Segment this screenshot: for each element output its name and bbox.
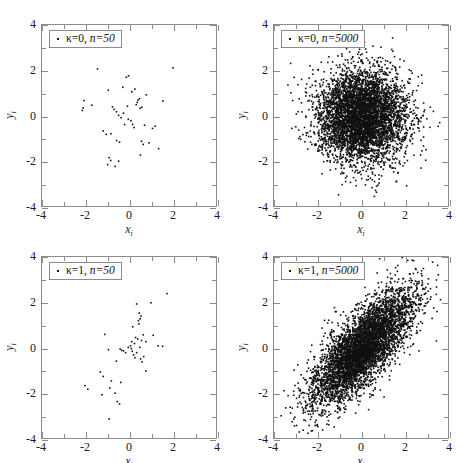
legend-label: κ=0, n=50 xyxy=(66,32,115,45)
tick-mark xyxy=(274,432,275,438)
tick-mark xyxy=(196,257,197,261)
tick-mark xyxy=(296,434,297,438)
tick-mark xyxy=(196,25,197,29)
y-tick-label: -2 xyxy=(258,155,268,167)
tick-mark xyxy=(218,257,219,263)
y-tick-label: 0 xyxy=(30,110,36,122)
tick-mark xyxy=(212,280,216,281)
plot-area xyxy=(42,25,216,206)
legend-kappa: κ=1, xyxy=(298,264,319,276)
tick-mark xyxy=(174,25,175,31)
tick-mark xyxy=(450,200,451,206)
legend-n: n=5000 xyxy=(322,264,359,276)
y-tick-label: 2 xyxy=(30,296,36,308)
tick-mark xyxy=(210,162,216,163)
dot-marker-icon xyxy=(289,270,291,272)
tick-mark xyxy=(384,25,385,29)
legend-box: κ=1, n=5000 xyxy=(281,262,365,280)
tick-mark xyxy=(444,417,448,418)
tick-mark xyxy=(174,432,175,438)
tick-mark xyxy=(42,257,48,258)
tick-mark xyxy=(340,434,341,438)
tick-mark xyxy=(42,25,48,26)
tick-mark xyxy=(274,371,278,372)
x-tick-label: 0 xyxy=(358,441,364,453)
dot-marker-icon xyxy=(57,38,59,40)
tick-mark xyxy=(212,371,216,372)
tick-mark xyxy=(42,432,43,438)
x-tick-label: -2 xyxy=(312,209,322,221)
y-tick-label: 0 xyxy=(262,342,268,354)
legend-n: n=5000 xyxy=(322,32,359,44)
x-tick-label: -4 xyxy=(36,441,46,453)
plot-area xyxy=(274,25,448,206)
tick-mark xyxy=(42,326,46,327)
y-axis-title-sub: i xyxy=(9,343,18,345)
tick-mark xyxy=(218,200,219,206)
tick-mark xyxy=(406,432,407,438)
figure-scatter-grid: κ=0, n=50 -4-2024 -4-2024 xi yi κ=0, n=5… xyxy=(0,0,463,463)
tick-mark xyxy=(428,25,429,29)
x-tick-label: -2 xyxy=(80,441,90,453)
tick-mark xyxy=(274,139,278,140)
tick-mark xyxy=(406,257,407,263)
legend-label: κ=1, n=5000 xyxy=(298,264,358,277)
tick-mark xyxy=(442,162,448,163)
tick-mark xyxy=(210,303,216,304)
tick-mark xyxy=(212,185,216,186)
tick-mark xyxy=(442,257,448,258)
tick-mark xyxy=(152,25,153,29)
x-tick-label: 2 xyxy=(402,209,408,221)
legend-box: κ=0, n=50 xyxy=(49,30,122,48)
tick-mark xyxy=(406,25,407,31)
y-axis-title-text: y xyxy=(2,113,16,118)
y-tick-label: 2 xyxy=(262,296,268,308)
tick-mark xyxy=(274,257,280,258)
tick-mark xyxy=(274,71,280,72)
panel-kappa0-n50: κ=0, n=50 -4-2024 -4-2024 xi yi xyxy=(0,0,231,231)
tick-mark xyxy=(152,257,153,261)
y-tick-label: 4 xyxy=(262,18,268,30)
tick-mark xyxy=(274,200,275,206)
x-tick-label: 4 xyxy=(446,441,452,453)
tick-mark xyxy=(64,25,65,29)
tick-mark xyxy=(64,202,65,206)
tick-mark xyxy=(210,394,216,395)
tick-mark xyxy=(340,202,341,206)
y-axis-title: yi xyxy=(234,343,250,351)
tick-mark xyxy=(274,94,278,95)
tick-mark xyxy=(108,257,109,261)
legend-n: n=50 xyxy=(90,264,115,276)
tick-mark xyxy=(196,202,197,206)
y-tick-label: -4 xyxy=(258,201,268,213)
tick-mark xyxy=(444,48,448,49)
x-tick-label: 4 xyxy=(214,441,220,453)
tick-mark xyxy=(384,434,385,438)
tick-mark xyxy=(212,94,216,95)
tick-mark xyxy=(42,162,48,163)
y-tick-label: 2 xyxy=(262,64,268,76)
tick-mark xyxy=(212,48,216,49)
tick-mark xyxy=(274,417,278,418)
tick-mark xyxy=(212,139,216,140)
tick-mark xyxy=(274,25,280,26)
legend-box: κ=0, n=5000 xyxy=(281,30,365,48)
tick-mark xyxy=(318,200,319,206)
tick-mark xyxy=(444,280,448,281)
dot-marker-icon xyxy=(289,38,291,40)
y-tick-label: -2 xyxy=(258,387,268,399)
legend-kappa: κ=0, xyxy=(298,32,319,44)
tick-mark xyxy=(210,257,216,258)
tick-mark xyxy=(42,185,46,186)
tick-mark xyxy=(444,139,448,140)
x-tick-label: 0 xyxy=(126,209,132,221)
tick-mark xyxy=(428,257,429,261)
x-tick-label: -4 xyxy=(36,209,46,221)
legend-box: κ=1, n=50 xyxy=(49,262,122,280)
tick-mark xyxy=(384,202,385,206)
tick-mark xyxy=(42,48,46,49)
tick-mark xyxy=(212,417,216,418)
scatter-series xyxy=(274,257,448,438)
tick-mark xyxy=(42,417,46,418)
x-tick-label: 0 xyxy=(126,441,132,453)
